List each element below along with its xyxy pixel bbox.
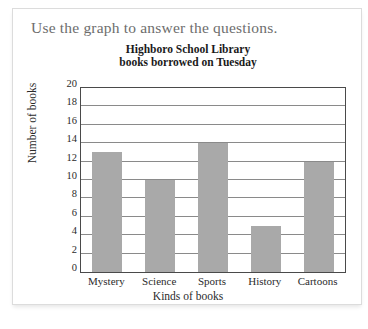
y-tick-label: 4 xyxy=(55,226,77,236)
y-axis-label: Number of books xyxy=(26,58,38,188)
y-tick-label: 8 xyxy=(55,189,77,199)
y-tick-label: 2 xyxy=(55,245,77,255)
y-tick-label: 6 xyxy=(55,208,77,218)
gridline xyxy=(81,105,345,106)
chart-title: Highboro School Library books borrowed o… xyxy=(13,43,363,68)
instruction-text: Use the graph to answer the questions. xyxy=(31,19,278,37)
bar-science xyxy=(145,180,175,272)
bar-history xyxy=(251,226,281,272)
y-tick-label: 12 xyxy=(55,153,77,163)
gridline xyxy=(81,124,345,125)
chart-title-line-2: books borrowed on Tuesday xyxy=(13,56,363,69)
x-axis-label: Kinds of books xyxy=(13,290,363,302)
y-tick-label: 14 xyxy=(55,134,77,144)
x-tick-label: Cartoons xyxy=(291,275,344,287)
x-tick-label: Sports xyxy=(186,275,239,287)
y-tick-label: 18 xyxy=(55,97,77,107)
bar-cartoons xyxy=(304,162,334,272)
y-tick-label: 20 xyxy=(55,79,77,89)
y-tick-label: 0 xyxy=(55,263,77,273)
y-tick-label: 16 xyxy=(55,116,77,126)
bar-sports xyxy=(198,143,228,272)
bar-mystery xyxy=(92,152,122,272)
chart-title-line-1: Highboro School Library xyxy=(13,43,363,56)
plot-area xyxy=(80,87,346,273)
worksheet-card: Use the graph to answer the questions. H… xyxy=(12,8,362,305)
x-tick-label: Mystery xyxy=(80,275,133,287)
x-tick-label: Science xyxy=(133,275,186,287)
y-tick-label: 10 xyxy=(55,171,77,181)
x-axis-ticks: MysteryScienceSportsHistoryCartoons xyxy=(80,275,346,291)
y-axis-ticks: 20181614121086420 xyxy=(52,87,77,273)
x-tick-label: History xyxy=(238,275,291,287)
